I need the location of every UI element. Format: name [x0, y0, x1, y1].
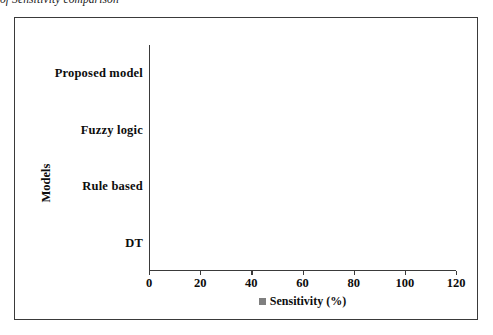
tick-mark: [405, 271, 406, 275]
category-label: Rule based: [82, 173, 143, 199]
tick-mark: [251, 271, 252, 275]
legend-label: Sensitivity (%): [270, 294, 346, 309]
tick-mark: [354, 271, 355, 275]
y-axis-title: Models: [39, 164, 54, 203]
tick-mark: [200, 271, 201, 275]
tick-label: 120: [447, 276, 466, 291]
tick-mark: [456, 271, 457, 275]
tick-label: 80: [347, 276, 360, 291]
category-label: Proposed model: [55, 60, 143, 86]
figure-caption: of Sensitivity comparison: [0, 0, 300, 9]
tick-label: 40: [245, 276, 258, 291]
tick-label: 20: [194, 276, 207, 291]
plot-area: DTRule basedFuzzy logicProposed model 02…: [149, 45, 456, 271]
category-label: DT: [125, 230, 143, 256]
legend-swatch-icon: [259, 298, 266, 305]
tick-label: 100: [395, 276, 414, 291]
tick-mark: [149, 271, 150, 275]
tick-label: 60: [296, 276, 309, 291]
y-axis-line: [149, 45, 150, 271]
tick-label: 0: [146, 276, 152, 291]
chart-frame: Models DTRule basedFuzzy logicProposed m…: [14, 17, 478, 320]
tick-mark: [303, 271, 304, 275]
category-label: Fuzzy logic: [81, 117, 143, 143]
value-axis-title-wrapper: Models: [37, 128, 55, 238]
chart-legend: Sensitivity (%): [149, 294, 456, 309]
